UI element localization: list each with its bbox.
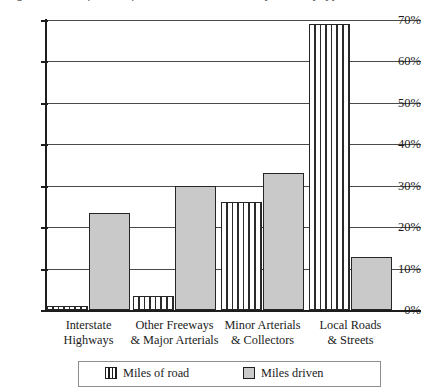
legend-swatch-striped-icon — [105, 367, 117, 379]
legend-label-miles-driven: Miles driven — [261, 366, 324, 380]
bar-miles-of-road — [47, 306, 88, 310]
legend-label-miles-of-road: Miles of road — [123, 366, 189, 380]
x-axis-category-label: Local Roads& Streets — [281, 318, 421, 347]
bar-miles-driven — [351, 257, 392, 310]
legend-entry-miles-driven: Miles driven — [243, 366, 324, 380]
bar-miles-of-road — [133, 296, 174, 311]
chart-legend: Miles of road Miles driven — [78, 361, 381, 387]
x-axis-category-label-line: Local Roads — [281, 318, 421, 333]
bar-miles-of-road — [309, 24, 350, 310]
plot-area — [47, 20, 421, 310]
bar-miles-driven — [175, 186, 216, 310]
x-axis-category-label-line: & Streets — [281, 333, 421, 348]
legend-swatch-solid-icon — [243, 367, 255, 379]
gridline — [47, 310, 421, 312]
bar-miles-driven — [263, 173, 304, 310]
bar-chart: 0%10%20%30%40%50%60%70% InterstateHighwa… — [0, 0, 421, 388]
legend-entry-miles-of-road: Miles of road — [105, 366, 189, 380]
bar-miles-driven — [89, 213, 130, 310]
bar-miles-of-road — [221, 202, 262, 310]
